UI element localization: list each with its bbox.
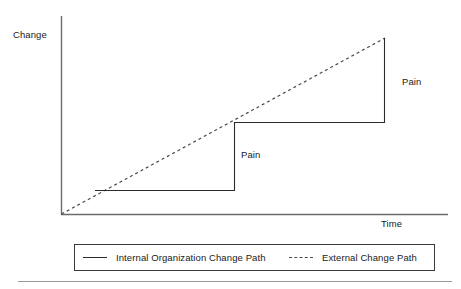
annotation-pain-upper: Pain — [402, 76, 421, 88]
chart-legend: Internal Organization Change Path Extern… — [74, 244, 435, 271]
change-path-figure: Change Time Pain Pain Internal Organizat… — [0, 0, 461, 289]
page-divider-rule — [18, 281, 452, 282]
legend-item-external-label: External Change Path — [322, 251, 417, 264]
external-change-path-line — [62, 38, 386, 214]
dashed-line-swatch-icon — [289, 257, 313, 258]
x-axis-label: Time — [381, 218, 402, 230]
solid-line-swatch-icon — [83, 257, 107, 258]
legend-item-internal: Internal Organization Change Path — [83, 251, 266, 264]
y-axis-label: Change — [13, 29, 47, 41]
internal-change-path-line — [95, 38, 385, 191]
annotation-pain-lower: Pain — [241, 149, 260, 161]
legend-item-internal-label: Internal Organization Change Path — [116, 251, 266, 264]
legend-item-external: External Change Path — [289, 251, 417, 264]
